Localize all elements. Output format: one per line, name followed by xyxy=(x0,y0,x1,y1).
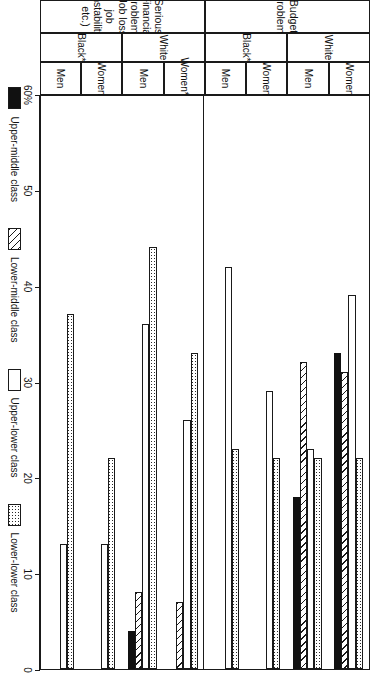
bar-lower_lower xyxy=(149,247,156,669)
sex-label-text: Women xyxy=(261,61,273,95)
bar-lower_middle xyxy=(176,602,183,669)
race-label-text: Black* xyxy=(240,33,252,61)
bar-lower_middle xyxy=(135,592,142,669)
bar-upper_lower xyxy=(142,324,149,669)
bar-lower_lower xyxy=(108,458,115,669)
sex-group-3: Men xyxy=(205,62,246,95)
axis-tick xyxy=(35,95,40,96)
race-group-white-budget: White xyxy=(287,33,370,62)
sex-label-text: Women** xyxy=(179,57,191,99)
rotated-chart-canvas: Budget Problems Serious Financial Proble… xyxy=(0,0,370,700)
section-label-serious: Serious Financial Problems (Job loss, jo… xyxy=(40,0,205,33)
axis-tick xyxy=(35,478,40,479)
race-group-black-serious: Black* xyxy=(40,33,122,62)
sex-label-text: Men xyxy=(302,69,314,88)
legend-label: Lower-lower class xyxy=(9,533,20,613)
race-label-text: White xyxy=(158,35,170,61)
legend-item-lower_lower: Lower-lower class xyxy=(8,504,21,613)
legend-item-lower_middle: Lower-middle class xyxy=(8,228,21,343)
legend-swatch-icon xyxy=(8,228,21,250)
bar-lower_lower xyxy=(273,458,280,669)
sex-label-text: Women xyxy=(344,61,356,95)
sex-group-2: Women xyxy=(246,62,287,95)
figure-stage: Budget Problems Serious Financial Proble… xyxy=(0,0,370,700)
bar-lower_middle xyxy=(300,362,307,669)
bar-lower_lower xyxy=(191,353,198,669)
category-label-table: Budget Problems Serious Financial Proble… xyxy=(40,0,370,95)
sex-label-text: Men xyxy=(137,69,149,88)
legend: Upper-middle classLower-middle classUppe… xyxy=(0,0,29,700)
bar-lower_lower xyxy=(356,458,363,669)
axis-tick xyxy=(35,574,40,575)
race-group-white-serious: White xyxy=(122,33,205,62)
bar-lower_lower xyxy=(67,314,74,669)
bar-upper_lower xyxy=(101,544,108,669)
bar-upper_lower xyxy=(348,295,355,669)
plot-area xyxy=(40,95,370,670)
bar-upper_lower xyxy=(183,420,190,669)
bar-upper_lower xyxy=(60,544,67,669)
legend-label: Lower-middle class xyxy=(9,257,20,343)
bar-upper_middle xyxy=(334,353,341,669)
legend-label: Upper-lower class xyxy=(9,398,20,478)
sex-label-text: Men xyxy=(220,69,232,88)
sex-group-1: Men xyxy=(287,62,329,95)
bar-upper_lower xyxy=(307,449,314,669)
sex-group-6: Women xyxy=(81,62,122,95)
panel-divider xyxy=(203,96,204,669)
sex-group-4: Women** xyxy=(164,62,205,95)
bar-lower_middle xyxy=(341,372,348,669)
axis-tick xyxy=(35,670,40,671)
sex-label-text: Women xyxy=(96,61,108,95)
axis-tick xyxy=(35,191,40,192)
sex-group-5: Men xyxy=(122,62,164,95)
legend-swatch-icon xyxy=(8,369,21,391)
sex-group-0: Women xyxy=(329,62,370,95)
legend-swatch-icon xyxy=(8,504,21,526)
race-label-text: Black* xyxy=(75,33,87,61)
axis-tick xyxy=(35,287,40,288)
legend-label: Upper-middle class xyxy=(9,116,20,202)
legend-item-upper_lower: Upper-lower class xyxy=(8,369,21,478)
section-label-budget: Budget Problems xyxy=(205,0,370,33)
bar-upper_middle xyxy=(293,497,300,670)
sex-label-text: Men xyxy=(55,69,67,88)
legend-swatch-icon xyxy=(8,87,21,109)
legend-item-upper_middle: Upper-middle class xyxy=(8,87,21,202)
race-label-text: White xyxy=(323,35,335,61)
bar-upper_middle xyxy=(128,631,135,669)
bar-upper_lower xyxy=(266,391,273,669)
race-group-black-budget: Black* xyxy=(205,33,287,62)
axis-tick xyxy=(35,383,40,384)
sex-group-7: Men xyxy=(40,62,81,95)
bar-upper_lower xyxy=(225,267,232,670)
bar-lower_lower xyxy=(232,449,239,669)
bar-lower_lower xyxy=(314,458,321,669)
